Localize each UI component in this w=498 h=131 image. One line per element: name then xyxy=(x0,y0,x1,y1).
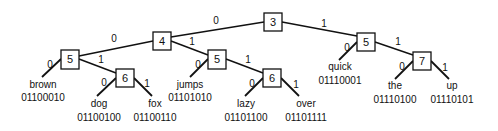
edge-label: 1 xyxy=(395,36,401,47)
node-n5b: 5 xyxy=(208,50,226,69)
trie-diagram: 0 1 0 1 0 1 0 1 0 1 0 1 0 1 0 1 3 4 5 6 … xyxy=(0,0,498,131)
leaf-the: the 01110100 xyxy=(373,80,416,105)
node-n4: 4 xyxy=(153,32,171,50)
edge-label: 0 xyxy=(195,59,201,70)
leaf-jumps: jumps 01101010 xyxy=(168,79,212,103)
edge-label: 1 xyxy=(189,36,195,47)
node-root: 3 xyxy=(264,13,282,31)
edge-label: 0 xyxy=(101,77,107,88)
leaf-word: jumps xyxy=(176,79,204,90)
edge-label: 0 xyxy=(47,59,53,70)
edge-label: 1 xyxy=(98,54,104,65)
node-label: 5 xyxy=(363,36,369,48)
edge-label: 1 xyxy=(321,18,327,29)
leaf-word: lazy xyxy=(237,98,255,109)
edge-label: 0 xyxy=(399,61,405,72)
leaf-code: 01110101 xyxy=(430,94,473,105)
leaf-code: 01101100 xyxy=(224,112,267,123)
node-n5a: 5 xyxy=(61,50,79,69)
leaf-code: 01110001 xyxy=(318,75,361,86)
edge-label: 1 xyxy=(144,78,150,89)
node-n5c: 5 xyxy=(357,33,375,51)
leaf-lazy: lazy 01101100 xyxy=(224,98,267,123)
node-n6a: 6 xyxy=(116,69,134,87)
node-label: 4 xyxy=(159,35,165,47)
leaf-word: brown xyxy=(29,79,56,90)
leaf-word: fox xyxy=(148,98,161,109)
leaf-up: up 01110101 xyxy=(430,80,473,105)
edge-label: 0 xyxy=(344,42,350,53)
leaf-code: 01101111 xyxy=(285,112,327,123)
node-label: 6 xyxy=(269,72,275,84)
edge-label: 0 xyxy=(249,78,255,89)
node-label: 7 xyxy=(419,55,425,67)
node-label: 3 xyxy=(270,16,276,28)
leaf-brown: brown 01100010 xyxy=(21,79,65,103)
edge-label: 0 xyxy=(111,33,117,44)
edge-label: 0 xyxy=(213,15,219,26)
edge-label: 1 xyxy=(442,62,448,73)
leaf-code: 01100110 xyxy=(133,112,176,123)
leaf-code: 01110100 xyxy=(373,94,416,105)
leaf-dog: dog 01100100 xyxy=(77,98,121,123)
edge-root-n5c xyxy=(282,22,357,36)
leaf-code: 01101010 xyxy=(168,92,212,103)
edge-label: 1 xyxy=(245,54,251,65)
node-label: 5 xyxy=(214,53,220,65)
node-label: 6 xyxy=(122,72,128,84)
leaf-word: dog xyxy=(91,98,108,109)
leaf-word: up xyxy=(446,80,458,91)
node-label: 5 xyxy=(67,53,73,65)
node-n6b: 6 xyxy=(263,69,281,87)
leaf-code: 01100010 xyxy=(21,92,65,103)
node-n7: 7 xyxy=(413,52,431,70)
edge-n5c-n7 xyxy=(375,42,413,55)
leaf-word: quick xyxy=(328,61,352,72)
leaf-word: the xyxy=(388,80,402,91)
leaf-over: over 01101111 xyxy=(285,98,327,123)
leaf-quick: quick 01110001 xyxy=(318,61,361,86)
edge-label: 1 xyxy=(293,79,299,90)
leaf-word: over xyxy=(296,98,316,109)
leaf-code: 01100100 xyxy=(77,112,121,123)
